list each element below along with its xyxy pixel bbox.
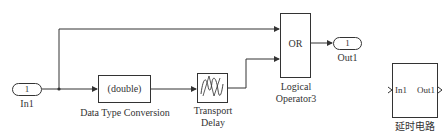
inport-label: In1 [12,98,42,110]
dtc-text: (double) [99,83,150,94]
subsystem-block[interactable]: In1 Out1 [392,63,438,118]
outport-out1[interactable]: 1 [333,37,362,50]
logical-operator-block[interactable]: OR [280,13,311,78]
or-text: OR [281,38,310,49]
outport-number: 1 [345,38,350,48]
transport-delay-label-1: Transport [187,105,239,117]
dtc-label: Data Type Conversion [74,107,176,119]
logical-operator-label-1: Logical [266,81,326,93]
inport-in1[interactable]: 1 [12,83,42,96]
inport-number: 1 [25,84,30,94]
outport-label: Out1 [333,52,362,64]
subsystem-out-port: Out1 [417,85,435,95]
transport-delay-label-2: Delay [187,117,239,129]
logical-operator-label-2: Operator3 [266,93,326,105]
subsystem-in-port: In1 [395,85,407,95]
subsystem-label: 延时电路 [385,121,445,133]
data-type-conversion-block[interactable]: (double) [98,75,151,103]
transport-delay-block[interactable] [197,73,228,103]
